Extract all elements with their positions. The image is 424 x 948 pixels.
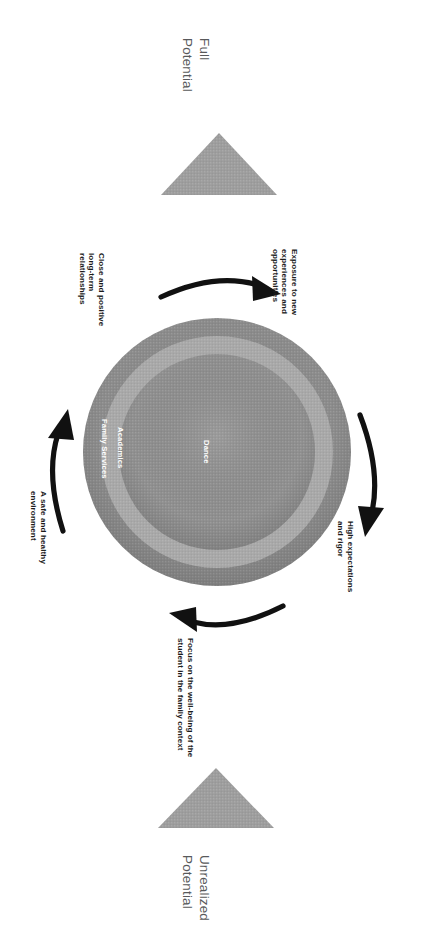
label-unrealized-potential: Unrealized Potential bbox=[179, 855, 213, 921]
caption-exposure-new-experiences: Exposure to new experiences and opportun… bbox=[270, 249, 299, 315]
arrow-left bbox=[48, 409, 74, 531]
arrow-bottom bbox=[169, 606, 283, 632]
caption-close-positive-relationships: Close and positive long-term relationshi… bbox=[77, 253, 106, 326]
label-full-potential: Full Potential bbox=[179, 38, 213, 92]
diagram-shapes bbox=[0, 0, 424, 948]
triangle-unrealized-potential bbox=[158, 768, 274, 828]
caption-safe-healthy-environment: A safe and healthy environment bbox=[29, 491, 48, 564]
caption-focus-wellbeing: Focus on the well-being of the student i… bbox=[176, 638, 195, 757]
diagram-canvas: Full Potential Unrealized Potential Clos… bbox=[0, 0, 424, 948]
arrow-top bbox=[161, 276, 281, 301]
arrow-right bbox=[358, 415, 384, 537]
triangle-full-potential bbox=[161, 133, 277, 195]
ring-label-family-services: Family Services bbox=[99, 419, 108, 479]
ring-label-dance: Dance bbox=[201, 440, 210, 464]
ring-label-academics: Academics bbox=[115, 427, 124, 468]
caption-high-expectations-rigor: High expectations and rigor bbox=[336, 521, 355, 592]
